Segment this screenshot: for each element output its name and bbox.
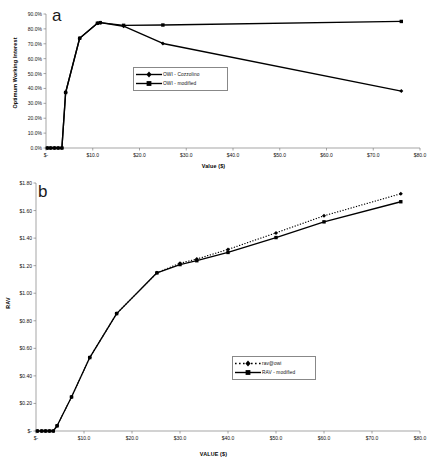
chart-a-x-tick-label: $10.0: [79, 152, 107, 158]
chart-a-y-tick-label: 40.0%: [0, 85, 42, 91]
chart-a-y-tick-label: 30.0%: [0, 100, 42, 106]
legend-marker-square-icon: [136, 79, 162, 88]
chart-b-y-tick-label: $1.20: [0, 263, 32, 269]
chart-b-legend: rav@owi RAV - modified: [232, 356, 316, 380]
chart-b-x-tick-label: $-: [22, 435, 50, 441]
chart-a-x-tick-label: $60.0: [313, 152, 341, 158]
chart-b-x-tick-label: $40.0: [214, 435, 242, 441]
chart-b-y-tick-label: $-: [0, 428, 32, 434]
chart-b-x-tick-label: $80.0: [406, 435, 427, 441]
chart-b-plot-area: [0, 175, 427, 461]
chart-b-y-tick-label: $0.60: [0, 345, 32, 351]
panel-letter-b: b: [38, 182, 48, 202]
chart-a-y-tick-label: 70.0%: [0, 41, 42, 47]
chart-b-x-axis-title: VALUE ($): [0, 451, 427, 457]
legend-item-rav-modified: RAV - modified: [235, 368, 312, 377]
legend-label-owi-modified: OWI - modified: [162, 81, 196, 86]
legend-item-owi-cozzolino: OWI - Cozzolino: [136, 70, 224, 79]
chart-a-y-tick-label: 80.0%: [0, 26, 42, 32]
chart-a-y-tick-label: 90.0%: [0, 11, 42, 17]
chart-a-y-tick-label: 60.0%: [0, 56, 42, 62]
chart-a-y-tick-label: 0.0%: [0, 145, 42, 151]
panel-letter-a: a: [52, 6, 62, 26]
chart-a-x-tick-label: $-: [32, 152, 60, 158]
chart-b-x-tick-label: $20.0: [118, 435, 146, 441]
chart-a-y-tick-label: 20.0%: [0, 115, 42, 121]
chart-a-x-tick-label: $20.0: [126, 152, 154, 158]
chart-b-y-tick-label: $0.20: [0, 400, 32, 406]
chart-a-x-tick-label: $70.0: [359, 152, 387, 158]
legend-item-rav-at-owi: rav@owi: [235, 359, 312, 368]
legend-marker-diamond-icon: [136, 70, 162, 79]
legend-marker-dotted-diamond-icon: [235, 359, 261, 368]
chart-a-x-tick-label: $30.0: [172, 152, 200, 158]
chart-b-x-tick-label: $50.0: [262, 435, 290, 441]
chart-panel-b: $-$0.20$0.40$0.60$0.80$1.00$1.20$1.40$1.…: [0, 175, 427, 461]
legend-label-rav-modified: RAV - modified: [261, 370, 295, 375]
legend-label-rav-at-owi: rav@owi: [261, 361, 281, 366]
chart-a-x-tick-label: $80.0: [406, 152, 427, 158]
chart-b-y-tick-label: $1.80: [0, 180, 32, 186]
chart-b-x-tick-label: $30.0: [166, 435, 194, 441]
chart-a-x-tick-label: $40.0: [219, 152, 247, 158]
chart-a-x-axis-title: Value ($): [0, 163, 427, 169]
figure-container: a Optimum Working Interest 0.0%10.0%20.0…: [0, 0, 427, 461]
chart-b-y-tick-label: $0.40: [0, 373, 32, 379]
chart-a-x-tick-label: $50.0: [266, 152, 294, 158]
legend-marker-solid-square-icon: [235, 368, 261, 377]
chart-b-x-tick-label: $60.0: [310, 435, 338, 441]
chart-a-legend: OWI - Cozzolino OWI - modified: [133, 67, 228, 91]
chart-a-y-tick-label: 10.0%: [0, 130, 42, 136]
chart-a-y-tick-label: 50.0%: [0, 71, 42, 77]
chart-b-y-tick-label: $1.60: [0, 208, 32, 214]
chart-b-y-tick-label: $1.40: [0, 235, 32, 241]
chart-b-y-axis-title: RAV: [5, 273, 11, 333]
chart-b-x-tick-label: $10.0: [70, 435, 98, 441]
chart-b-x-tick-label: $70.0: [358, 435, 386, 441]
legend-label-owi-cozzolino: OWI - Cozzolino: [162, 72, 199, 77]
legend-item-owi-modified: OWI - modified: [136, 79, 224, 88]
